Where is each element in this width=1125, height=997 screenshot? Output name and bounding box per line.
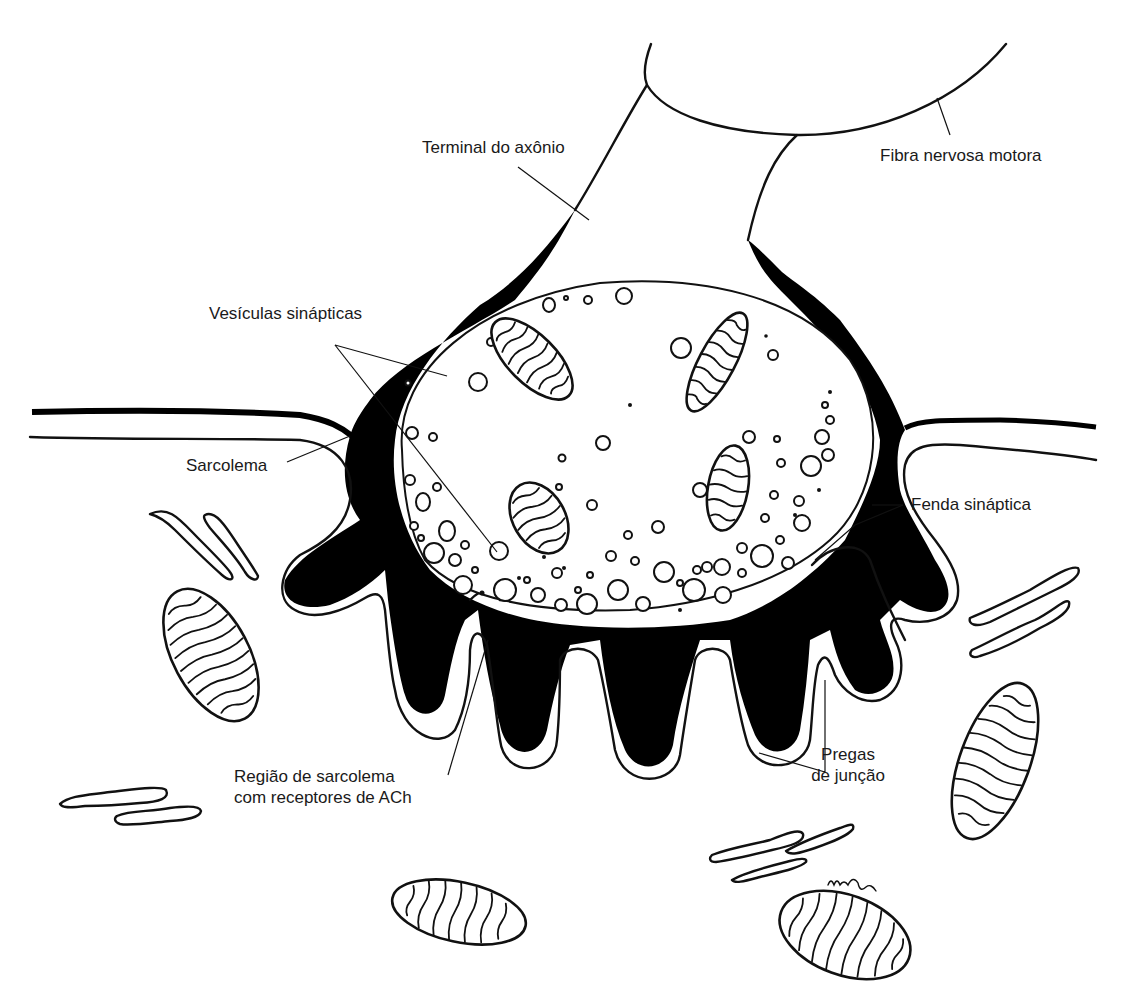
motor-nerve-fiber	[575, 44, 1006, 240]
label-folds-line2: de junção	[798, 765, 898, 786]
mitochondrion	[767, 874, 922, 996]
leader-ach-region	[448, 640, 488, 775]
label-synaptic-vesicles: Vesículas sinápticas	[209, 303, 362, 324]
leader-motor-nerve-fiber	[937, 98, 950, 135]
label-junctional-folds: Pregas de junção	[798, 744, 898, 786]
label-ach-region-line1: Região de sarcolema	[234, 766, 412, 787]
leader-vesicles-a	[335, 345, 447, 376]
label-ach-region-line2: com receptores de ACh	[234, 787, 412, 808]
label-motor-nerve-fiber: Fibra nervosa motora	[880, 145, 1042, 166]
mitochondrion	[934, 672, 1056, 850]
mitochondrion	[386, 869, 532, 956]
label-folds-line1: Pregas	[798, 744, 898, 765]
leader-axon-terminal	[518, 167, 589, 220]
label-axon-terminal: Terminal do axônio	[422, 137, 565, 158]
scribble-mark	[828, 879, 876, 891]
label-sarcolemma: Sarcolema	[186, 455, 267, 476]
mitochondrion	[144, 574, 279, 737]
label-synaptic-cleft: Fenda sináptica	[911, 494, 1031, 515]
label-ach-receptor-region: Região de sarcolema com receptores de AC…	[234, 766, 412, 808]
